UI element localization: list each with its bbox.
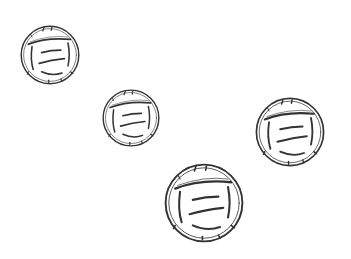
ball-sketch-icon [164,163,244,243]
ball-sketch-icon [102,89,160,147]
ball-sketch-icon [255,97,325,167]
ball-sketch-icon [20,25,80,85]
canvas [0,0,351,259]
